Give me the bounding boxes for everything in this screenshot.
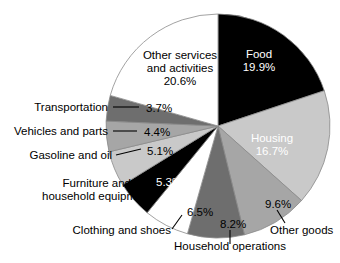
- callout-household-operations: Household operations: [174, 240, 286, 252]
- label-transportation-percent: 3.7%: [146, 102, 172, 114]
- label-household-operations-percent: 8.2%: [220, 218, 246, 230]
- label-other-services-name-line1: Other services: [143, 49, 217, 61]
- label-food-percent: 19.9%: [243, 61, 276, 73]
- callout-vehicles-and-parts: Vehicles and parts: [14, 125, 108, 137]
- label-clothing-and-shoes-percent: 6.5%: [187, 206, 213, 218]
- label-other-services-name-line2: and activities: [147, 62, 214, 74]
- label-gasoline-and-oil-percent: 5.1%: [147, 145, 173, 157]
- callout-other-goods: Other goods: [270, 224, 334, 236]
- label-vehicles-and-parts-percent: 4.4%: [144, 126, 170, 138]
- callout-gasoline-and-oil: Gasoline and oil: [30, 149, 112, 161]
- callout-transportation: Transportation: [34, 101, 108, 113]
- label-other-services-percent: 20.6%: [164, 75, 197, 87]
- callout-furniture-line1: Furniture and: [63, 177, 131, 189]
- pie-chart-svg: Food 19.9% Housing 16.7% Other services …: [0, 0, 340, 263]
- label-other-goods-percent: 9.6%: [265, 198, 291, 210]
- label-food-name: Food: [246, 48, 272, 60]
- pie-slices: [106, 14, 330, 238]
- pie-chart: Food 19.9% Housing 16.7% Other services …: [0, 0, 340, 263]
- label-housing-percent: 16.7%: [256, 145, 289, 157]
- label-housing-name: Housing: [251, 132, 293, 144]
- callout-furniture-line2: household equipment: [42, 190, 153, 202]
- callout-clothing-and-shoes: Clothing and shoes: [73, 224, 172, 236]
- label-furniture-percent: 5.3%: [156, 176, 182, 188]
